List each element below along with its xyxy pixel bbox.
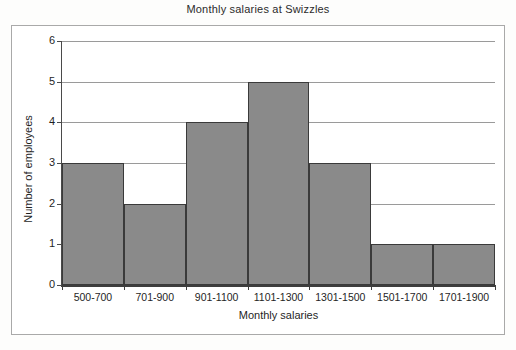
y-axis-tick-label: 6 xyxy=(33,35,55,46)
plot-area xyxy=(62,41,495,285)
bar xyxy=(62,163,124,285)
x-axis-tick-label: 1301-1500 xyxy=(309,291,371,303)
x-axis-tick xyxy=(371,285,372,290)
y-axis-tick xyxy=(57,82,62,83)
y-axis-tick-label: 3 xyxy=(33,157,55,168)
chart-title: Monthly salaries at Swizzles xyxy=(0,3,516,15)
y-axis-tick-label: 2 xyxy=(33,198,55,209)
x-axis-tick-label: 901-1100 xyxy=(186,291,248,303)
gridline xyxy=(62,41,495,42)
y-axis-tick-label: 0 xyxy=(33,279,55,290)
bar xyxy=(248,82,309,285)
x-axis-tick xyxy=(495,285,496,290)
x-axis-title: Monthly salaries xyxy=(61,309,496,321)
x-axis-tick xyxy=(248,285,249,290)
bar xyxy=(124,204,186,285)
x-axis-tick xyxy=(433,285,434,290)
y-axis-tick xyxy=(57,163,62,164)
y-axis-title: Number of employees xyxy=(22,79,34,259)
x-axis-tick xyxy=(186,285,187,290)
x-axis-tick xyxy=(62,285,63,290)
y-axis-tick xyxy=(57,122,62,123)
x-axis-tick-label: 1701-1900 xyxy=(433,291,495,303)
y-axis-tick xyxy=(57,244,62,245)
bar xyxy=(309,163,371,285)
y-axis-tick xyxy=(57,41,62,42)
x-axis-tick xyxy=(124,285,125,290)
y-axis-tick xyxy=(57,204,62,205)
bar xyxy=(186,122,248,285)
x-axis-tick-label: 1101-1300 xyxy=(248,291,310,303)
y-axis-tick-label: 4 xyxy=(33,116,55,127)
x-axis-tick xyxy=(309,285,310,290)
x-axis-tick-label: 1501-1700 xyxy=(371,291,433,303)
x-axis-tick-label: 701-900 xyxy=(124,291,186,303)
bar xyxy=(371,244,433,285)
y-axis-tick-label: 1 xyxy=(33,238,55,249)
y-axis-tick-label: 5 xyxy=(33,76,55,87)
x-axis-line xyxy=(61,285,496,287)
bar xyxy=(433,244,495,285)
x-axis-tick-label: 500-700 xyxy=(62,291,124,303)
histogram-figure: Monthly salaries at Swizzles 0123456 500… xyxy=(0,0,516,350)
